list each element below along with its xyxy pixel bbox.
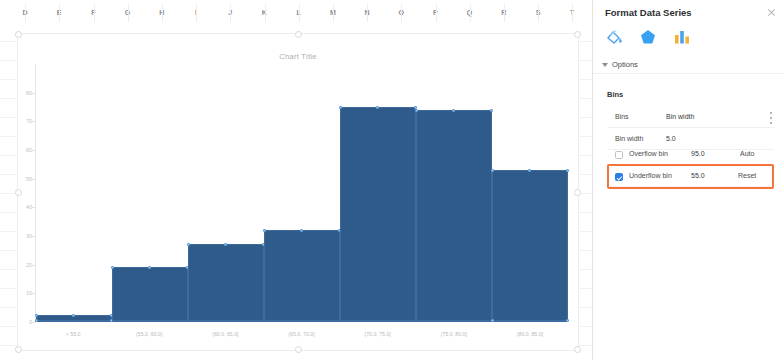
- histogram-bar[interactable]: [188, 244, 264, 321]
- overflow-bin-row: Overflow bin 95.0 Auto: [593, 145, 784, 165]
- series-selection-handle[interactable]: [528, 169, 531, 172]
- column-separator: [436, 4, 437, 22]
- overflow-bin-input[interactable]: 95.0: [691, 150, 705, 157]
- column-separator: [504, 4, 505, 22]
- series-selection-handle[interactable]: [224, 243, 227, 246]
- format-data-series-pane: Format Data Series: [592, 0, 784, 360]
- bar-slot: [340, 64, 416, 321]
- histogram-bar[interactable]: [264, 230, 340, 321]
- column-separator: [538, 4, 539, 22]
- spreadsheet-area: DEFGHIJKLMNOPQRST Chart Title 0102030405…: [0, 0, 592, 360]
- bar-chart-icon[interactable]: [671, 27, 693, 47]
- bar-slot: [492, 64, 568, 321]
- chart-resize-handle-bl[interactable]: [15, 346, 22, 353]
- histogram-bar[interactable]: [340, 107, 416, 321]
- chart-resize-handle-bc[interactable]: [295, 346, 302, 353]
- histogram-bar[interactable]: [416, 110, 492, 321]
- x-axis-tick-label: (75.0, 80.0]: [416, 326, 492, 342]
- overflow-bin-auto-button[interactable]: Auto: [740, 150, 754, 157]
- bin-width-label: Bin width: [615, 135, 643, 142]
- y-axis-tick-mark: [32, 150, 35, 151]
- y-axis-tick-mark: [32, 265, 35, 266]
- x-axis-line: [35, 321, 568, 322]
- x-axis-tick-label: (70.0, 75.0]: [340, 326, 416, 342]
- histogram-bar[interactable]: [36, 315, 112, 321]
- plot-area: 01020304050607080: [35, 64, 568, 322]
- chevron-down-icon: [602, 63, 608, 67]
- underflow-bin-reset-button[interactable]: Reset: [738, 172, 756, 179]
- pane-title: Format Data Series: [605, 7, 692, 18]
- series-selection-handle[interactable]: [72, 314, 75, 317]
- chart-resize-handle-ml[interactable]: [15, 189, 22, 196]
- series-selection-handle[interactable]: [491, 169, 494, 172]
- series-selection-handle[interactable]: [376, 106, 379, 109]
- series-selection-handle[interactable]: [263, 229, 266, 232]
- divider: [593, 73, 784, 74]
- series-selection-handle[interactable]: [452, 109, 455, 112]
- overflow-bin-checkbox[interactable]: [615, 151, 623, 159]
- chart-object[interactable]: Chart Title 01020304050607080 < 55.0(55.…: [17, 33, 579, 351]
- x-axis-tick-label: (55.0, 60.0]: [111, 326, 187, 342]
- series-selection-handle[interactable]: [491, 319, 494, 322]
- x-axis-tick-label: (80.0, 85.0]: [492, 326, 568, 342]
- column-separator: [128, 4, 129, 22]
- series-selection-handle[interactable]: [566, 319, 569, 322]
- series-selection-handle[interactable]: [35, 314, 38, 317]
- chart-resize-handle-tl[interactable]: [15, 31, 22, 38]
- chart-title[interactable]: Chart Title: [18, 52, 578, 61]
- bins-label: Bins: [615, 113, 629, 120]
- column-separator: [299, 4, 300, 22]
- series-selection-handle[interactable]: [111, 266, 114, 269]
- x-axis-labels: < 55.0(55.0, 60.0](60.0, 65.0](65.0, 70.…: [35, 326, 568, 342]
- pentagon-icon[interactable]: [637, 27, 659, 47]
- column-separator: [470, 4, 471, 22]
- chart-resize-handle-br[interactable]: [574, 346, 581, 353]
- y-axis-tick-mark: [32, 322, 35, 323]
- plot-inner: 01020304050607080: [35, 64, 568, 322]
- pane-icon-tabs: [593, 26, 784, 52]
- histogram-bar[interactable]: [492, 170, 568, 321]
- underflow-bin-checkbox[interactable]: [615, 173, 623, 181]
- column-separator: [333, 4, 334, 22]
- chart-resize-handle-mr[interactable]: [574, 189, 581, 196]
- column-separator: [59, 4, 60, 22]
- options-section-toggle[interactable]: Options: [593, 56, 784, 74]
- bins-more-options-icon[interactable]: [770, 112, 772, 124]
- y-axis-tick-mark: [32, 236, 35, 237]
- column-separator: [401, 4, 402, 22]
- bar-slot: [416, 64, 492, 321]
- y-axis-tick-mark: [32, 207, 35, 208]
- column-separator: [94, 4, 95, 22]
- bins-row: Bins Bin width: [593, 108, 784, 128]
- divider: [607, 186, 774, 187]
- bar-slot: [112, 64, 188, 321]
- series-selection-handle[interactable]: [187, 243, 190, 246]
- paint-bucket-icon[interactable]: [603, 27, 625, 47]
- y-axis-tick-mark: [32, 179, 35, 180]
- bins-select-value[interactable]: Bin width: [666, 113, 694, 120]
- y-axis-tick-mark: [32, 293, 35, 294]
- series-selection-handle[interactable]: [148, 266, 151, 269]
- column-header-row: DEFGHIJKLMNOPQRST: [0, 4, 592, 23]
- chart-resize-handle-tr[interactable]: [574, 31, 581, 38]
- series-selection-handle[interactable]: [339, 106, 342, 109]
- series-selection-handle[interactable]: [35, 319, 38, 322]
- bin-width-input[interactable]: 5.0: [666, 135, 676, 142]
- bar-slot: [188, 64, 264, 321]
- column-separator: [196, 4, 197, 22]
- series-selection-handle[interactable]: [300, 229, 303, 232]
- bins-section-header: Bins: [607, 90, 623, 99]
- series-selection-handle[interactable]: [415, 109, 418, 112]
- underflow-bin-label: Underflow bin: [629, 172, 672, 179]
- close-icon[interactable]: [767, 8, 776, 17]
- chart-resize-handle-tc[interactable]: [295, 31, 302, 38]
- series-selection-handle[interactable]: [566, 169, 569, 172]
- bar-series[interactable]: [36, 64, 568, 321]
- column-separator: [367, 4, 368, 22]
- bar-slot: [36, 64, 112, 321]
- histogram-bar[interactable]: [112, 267, 188, 321]
- x-axis-tick-label: < 55.0: [35, 326, 111, 342]
- underflow-bin-input[interactable]: 55.0: [691, 172, 705, 179]
- divider: [607, 164, 774, 165]
- underflow-bin-row: Underflow bin 55.0 Reset: [593, 167, 784, 187]
